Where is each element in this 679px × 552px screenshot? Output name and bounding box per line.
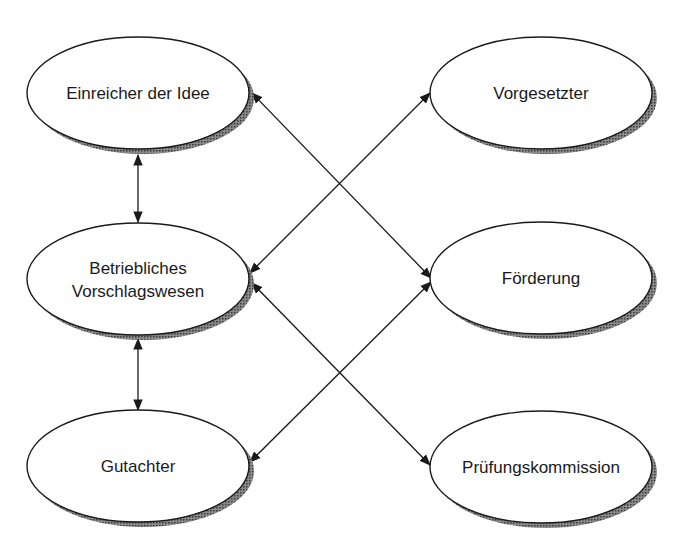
node-ellipse <box>27 223 249 335</box>
node-label: Vorgesetzter <box>493 84 589 103</box>
node-einreicher: Einreicher der Idee <box>27 37 254 154</box>
node-label: Betriebliches <box>89 259 186 278</box>
node-pruefung: Prüfungskommission <box>430 411 657 528</box>
node-label: Förderung <box>502 269 580 288</box>
nodes: Einreicher der IdeeBetrieblichesVorschla… <box>27 37 657 528</box>
node-vorgesetzter: Vorgesetzter <box>430 37 657 154</box>
node-gutachter: Gutachter <box>27 410 254 527</box>
node-label: Prüfungskommission <box>462 458 620 477</box>
diagram-canvas: Einreicher der IdeeBetrieblichesVorschla… <box>0 0 679 552</box>
node-label: Einreicher der Idee <box>66 84 210 103</box>
node-label: Vorschlagswesen <box>72 282 204 301</box>
edge-einreicher-foerderung <box>252 93 431 278</box>
node-foerderung: Förderung <box>430 222 657 339</box>
node-label: Gutachter <box>101 457 176 476</box>
edge-vorgesetzter-bvw <box>250 93 430 273</box>
node-bvw: BetrieblichesVorschlagswesen <box>27 223 254 340</box>
